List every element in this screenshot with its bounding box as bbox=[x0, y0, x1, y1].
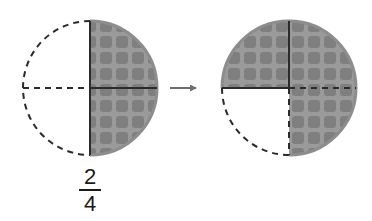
waffle-texture bbox=[285, 17, 363, 95]
right-circle-group bbox=[218, 17, 363, 162]
right-circle-quadrant-top-right bbox=[285, 17, 363, 95]
fraction-numerator: 2 bbox=[62, 166, 118, 188]
right-circle-quadrant-bottom-right bbox=[285, 84, 363, 162]
right-circle-quadrant-top-left bbox=[218, 17, 296, 95]
left-circle-quadrant-bottom-right bbox=[86, 84, 164, 162]
fraction-diagram-svg bbox=[0, 0, 372, 221]
waffle-texture bbox=[86, 17, 164, 95]
left-circle-quadrant-top-right bbox=[86, 17, 164, 95]
waffle-texture bbox=[285, 84, 363, 162]
waffle-texture bbox=[86, 84, 164, 162]
fraction-figure: 2 4 bbox=[0, 0, 372, 221]
fraction-denominator: 4 bbox=[62, 193, 118, 215]
right-circle-dashed-arc bbox=[222, 88, 289, 155]
left-circle-group bbox=[23, 17, 164, 162]
fraction-label: 2 4 bbox=[62, 166, 118, 215]
